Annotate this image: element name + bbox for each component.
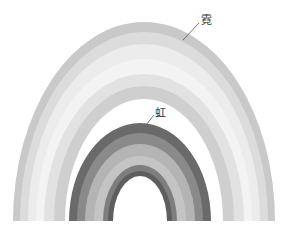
primary-rainbow-label: 虹: [155, 108, 166, 119]
secondary-rainbow-label: 霓: [201, 15, 212, 26]
rainbow-diagram: [0, 0, 286, 232]
